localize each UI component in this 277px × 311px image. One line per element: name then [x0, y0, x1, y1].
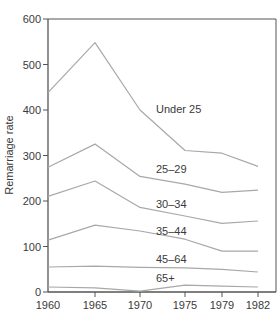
- series-line-30-34: [48, 181, 258, 223]
- remarriage-rate-chart: 0100200300400500600 19601965197019751979…: [0, 0, 277, 311]
- series-line-25-29: [48, 144, 258, 192]
- x-tick-label: 1982: [246, 299, 270, 311]
- y-tick-label: 0: [35, 286, 41, 298]
- y-axis-title: Remarriage rate: [3, 115, 15, 194]
- y-tick-label: 200: [23, 195, 41, 207]
- series-label-25-29: 25–29: [156, 163, 187, 175]
- x-tick-label: 1960: [36, 299, 60, 311]
- series-label-30-34: 30–34: [156, 198, 187, 210]
- series-label-65-plus: 65+: [156, 272, 175, 284]
- y-tick-label: 300: [23, 150, 41, 162]
- y-tick-label: 500: [23, 59, 41, 71]
- series-label-under-25: Under 25: [156, 103, 201, 115]
- series-line-35-44: [48, 225, 258, 251]
- x-tick-label: 1965: [83, 299, 107, 311]
- y-tick-label: 600: [23, 13, 41, 25]
- series-label-35-44: 35–44: [156, 225, 187, 237]
- series-line-65: [48, 285, 258, 291]
- y-tick-label: 400: [23, 104, 41, 116]
- x-tick-label: 1970: [128, 299, 152, 311]
- series-line-45-64: [48, 266, 258, 272]
- x-axis: 196019651970197519791982: [36, 292, 276, 311]
- y-tick-label: 100: [23, 241, 41, 253]
- y-axis: 0100200300400500600: [23, 13, 48, 298]
- series-line-under-25: [48, 43, 258, 167]
- series-lines: [48, 43, 258, 291]
- x-tick-label: 1979: [210, 299, 234, 311]
- series-label-45-64: 45–64: [156, 253, 187, 265]
- x-tick-label: 1975: [173, 299, 197, 311]
